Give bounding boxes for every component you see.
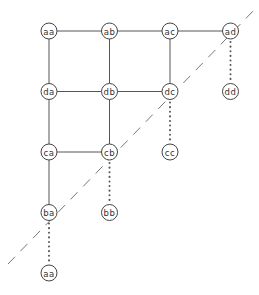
node-label: db	[104, 87, 116, 97]
node-ca: ca	[41, 144, 57, 160]
node-dd: dd	[223, 84, 239, 100]
edges	[49, 31, 231, 262]
node-label: ba	[43, 208, 55, 218]
node-label: dd	[225, 87, 237, 97]
node-label: ca	[44, 148, 55, 158]
node-label: ac	[165, 27, 176, 37]
node-aa-bottom: aa	[41, 265, 57, 281]
node-cb: cb	[102, 144, 118, 160]
node-ac: ac	[162, 23, 178, 39]
node-cc: cc	[162, 144, 178, 160]
node-label: ad	[225, 27, 237, 37]
node-da: da	[41, 84, 57, 100]
lattice-diagram: aaabacaddadbdcddcacbccbabbaa	[0, 0, 259, 295]
node-bb: bb	[102, 205, 118, 221]
node-label: cb	[104, 148, 115, 158]
node-label: cc	[165, 148, 175, 158]
node-db: db	[102, 84, 118, 100]
node-label: aa	[43, 27, 54, 37]
node-dc: dc	[162, 84, 178, 100]
node-aa-top: aa	[41, 23, 57, 39]
node-label: bb	[104, 208, 116, 218]
node-ab: ab	[102, 23, 118, 39]
node-ad: ad	[223, 23, 239, 39]
node-label: aa	[43, 269, 54, 279]
dashed-diagonal-line	[8, 8, 256, 264]
node-label: da	[43, 87, 55, 97]
node-label: ab	[104, 27, 116, 37]
node-label: dc	[164, 87, 175, 97]
node-ba: ba	[41, 205, 57, 221]
